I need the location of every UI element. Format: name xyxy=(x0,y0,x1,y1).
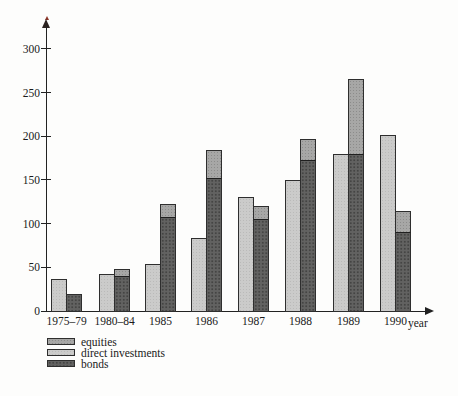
bar-direct-investments-1 xyxy=(51,279,67,312)
y-tick-0 xyxy=(41,311,51,312)
bar-bonds-1 xyxy=(66,294,82,312)
y-axis xyxy=(46,26,47,311)
bar-direct-investments-7 xyxy=(333,154,349,312)
y-tick-label-50: 50 xyxy=(5,260,40,274)
y-tick-label-100: 100 xyxy=(5,217,40,231)
bar-bonds-2 xyxy=(114,276,130,312)
bar-equities-2 xyxy=(114,269,130,277)
bar-equities-5 xyxy=(253,206,269,220)
bar-equities-3 xyxy=(160,204,176,218)
bar-bonds-3 xyxy=(160,217,176,312)
bar-bonds-4 xyxy=(206,178,222,312)
y-tick-50 xyxy=(41,267,51,268)
legend-label-bonds: bonds xyxy=(81,358,108,370)
bonds-swatch-icon xyxy=(47,360,75,367)
bar-bonds-7 xyxy=(348,154,364,312)
bar-direct-investments-3 xyxy=(145,264,161,312)
y-tick-150 xyxy=(41,179,51,180)
bar-equities-8 xyxy=(395,211,411,233)
bar-chart-figure: 050100150200250300 1975–791980–841985198… xyxy=(0,0,458,396)
bar-equities-4 xyxy=(206,150,222,179)
bar-direct-investments-8 xyxy=(380,135,396,312)
y-tick-100 xyxy=(41,223,51,224)
bar-equities-7 xyxy=(348,79,364,154)
x-axis-title: year xyxy=(408,316,452,330)
y-tick-label-150: 150 xyxy=(5,173,40,187)
direct-investments-swatch-icon xyxy=(47,349,75,356)
y-tick-300 xyxy=(41,48,51,49)
y-tick-250 xyxy=(41,92,51,93)
bar-direct-investments-4 xyxy=(191,238,207,312)
bar-direct-investments-6 xyxy=(285,180,301,312)
bar-direct-investments-2 xyxy=(99,274,115,312)
equities-swatch-icon xyxy=(47,338,75,345)
bar-bonds-6 xyxy=(300,160,316,312)
y-tick-label-300: 300 xyxy=(5,42,40,56)
bar-bonds-5 xyxy=(253,219,269,312)
bar-equities-6 xyxy=(300,139,316,161)
bar-direct-investments-5 xyxy=(238,197,254,312)
y-tick-200 xyxy=(41,136,51,137)
y-tick-label-250: 250 xyxy=(5,86,40,100)
y-tick-label-200: 200 xyxy=(5,129,40,143)
bar-bonds-8 xyxy=(395,232,411,312)
